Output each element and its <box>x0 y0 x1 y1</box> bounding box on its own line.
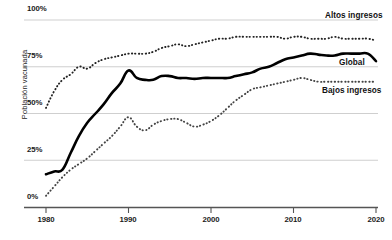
series-label-global: Global <box>339 58 365 67</box>
y-tick-label-100: 100% <box>27 4 47 13</box>
series-label-altos-ingresos: Altos ingresos <box>325 11 383 20</box>
x-tick-label-1990: 1990 <box>113 215 143 224</box>
x-tick-label-2020: 2020 <box>361 215 391 224</box>
y-axis-title: Población vacunada <box>20 25 29 145</box>
vaccination-coverage-chart: Población vacunada 100% 75% 50% 25% 0% 1… <box>0 0 392 240</box>
series-line-altos-ingresos <box>46 37 376 108</box>
y-tick-label-25: 25% <box>27 145 42 154</box>
y-tick-label-75: 75% <box>27 51 42 60</box>
series-label-bajos-ingresos: Bajos ingresos <box>322 86 381 95</box>
y-tick-label-50: 50% <box>27 98 42 107</box>
x-tick-label-2000: 2000 <box>196 215 226 224</box>
series-paths <box>46 37 376 196</box>
y-gridlines <box>24 20 378 207</box>
x-tick-label-2010: 2010 <box>278 215 308 224</box>
chart-canvas <box>0 0 392 240</box>
y-tick-label-0: 0% <box>27 192 38 201</box>
x-tick-label-1980: 1980 <box>31 215 61 224</box>
series-line-bajos-ingresos <box>46 78 376 196</box>
